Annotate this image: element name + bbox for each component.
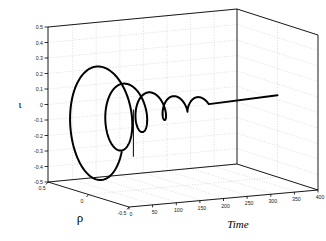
rho-tick-label: 0: [81, 198, 84, 204]
time-tick-label: 400: [316, 194, 325, 200]
time-tick-label: 50: [152, 209, 158, 215]
rho-tick-label: 0.5: [38, 185, 45, 191]
y-axis-label: ι: [19, 98, 22, 110]
plot-canvas: 0.5 0.4 0.3 0.2 0.1 0 -0.1 -0.2 -0.3 -0.…: [0, 0, 326, 241]
plot-background: [0, 0, 326, 241]
y-tick-label: 0.3: [36, 55, 43, 61]
y-tick-label: -0.3: [34, 148, 43, 154]
time-tick-label: 250: [245, 200, 254, 206]
time-tick-label: 150: [198, 205, 207, 211]
y-tick-label: -0.4: [34, 164, 43, 170]
y-tick-label: 0.4: [36, 40, 43, 46]
time-tick-label: 200: [221, 203, 230, 209]
time-tick-label: 0: [130, 211, 133, 217]
y-tick-label: 0.2: [36, 71, 43, 77]
time-axis-label: Time: [227, 218, 249, 230]
y-tick-label: -0.1: [34, 117, 43, 123]
rho-tick-label: -0.5: [118, 210, 127, 216]
time-tick-label: 100: [174, 207, 183, 213]
time-tick-label: 350: [292, 196, 301, 202]
figure-3d-plot: 0.5 0.4 0.3 0.2 0.1 0 -0.1 -0.2 -0.3 -0.…: [0, 0, 326, 241]
time-tick-label: 300: [268, 198, 277, 204]
rho-axis-label: ρ: [77, 210, 84, 225]
y-tick-label: 0: [40, 102, 43, 108]
y-tick-label: 0.1: [36, 86, 43, 92]
y-tick-label: 0.5: [36, 24, 43, 30]
y-tick-label: -0.2: [34, 133, 43, 139]
